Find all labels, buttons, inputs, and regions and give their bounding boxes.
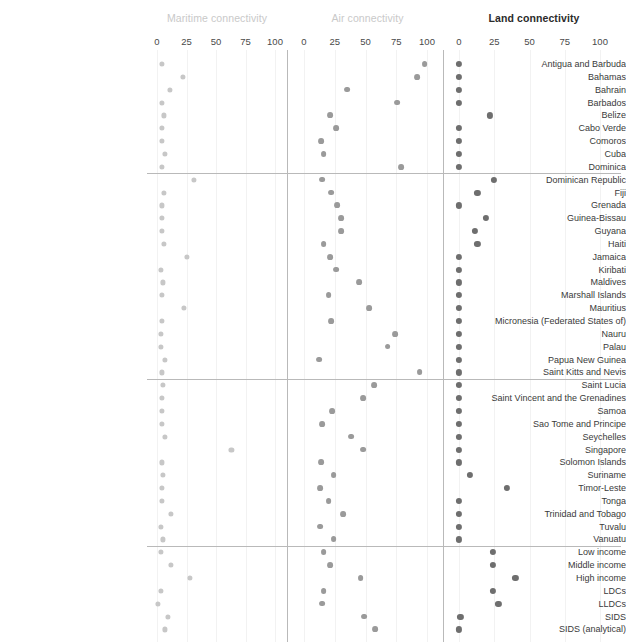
data-point-air xyxy=(327,254,333,260)
data-point-maritime xyxy=(159,408,164,413)
row-label: Maldives xyxy=(483,277,626,287)
data-point-land xyxy=(474,189,480,195)
data-point-air xyxy=(360,447,366,453)
gridline xyxy=(304,50,305,642)
gridline xyxy=(275,50,276,642)
data-point-maritime xyxy=(163,627,168,632)
data-point-land xyxy=(456,524,462,530)
row-label: Guyana xyxy=(483,226,626,236)
data-point-maritime xyxy=(159,100,164,105)
panel-title-land: Land connectivity xyxy=(447,12,621,24)
row-label: SIDS (analytical) xyxy=(483,624,626,634)
gridline xyxy=(246,50,247,642)
row-label: Middle income xyxy=(483,560,626,570)
row-label: Seychelles xyxy=(483,432,626,442)
row-label: Cuba xyxy=(483,149,626,159)
gridline xyxy=(366,50,367,642)
row-label: Dominican Republic xyxy=(483,175,626,185)
x-tick-label: 100 xyxy=(267,36,283,47)
row-label: Kiribati xyxy=(483,265,626,275)
panel-divider xyxy=(443,50,444,642)
data-point-maritime xyxy=(161,190,166,195)
data-point-air xyxy=(320,177,326,183)
x-tick-label: 100 xyxy=(592,36,608,47)
row-label: SIDS xyxy=(483,612,626,622)
data-point-maritime xyxy=(158,331,163,336)
data-point-maritime xyxy=(160,473,165,478)
x-tick-label: 25 xyxy=(329,36,340,47)
data-point-air xyxy=(331,472,337,478)
data-point-air xyxy=(334,202,340,208)
data-point-air xyxy=(348,434,354,440)
data-point-maritime xyxy=(167,87,172,92)
data-point-land xyxy=(456,331,462,337)
data-point-air xyxy=(321,241,327,247)
panel-divider xyxy=(287,50,288,642)
data-point-land xyxy=(456,164,462,170)
data-point-land xyxy=(456,267,462,273)
data-point-air xyxy=(356,280,362,286)
data-point-land xyxy=(456,459,462,465)
row-label: LLDCs xyxy=(483,599,626,609)
data-point-air xyxy=(340,511,346,517)
data-point-air xyxy=(317,524,323,530)
data-point-land xyxy=(456,421,462,427)
data-point-maritime xyxy=(158,524,163,529)
data-point-maritime xyxy=(159,396,164,401)
row-label: LDCs xyxy=(483,586,626,596)
row-label: Bahrain xyxy=(483,85,626,95)
row-label: Guinea-Bissau xyxy=(483,213,626,223)
data-point-air xyxy=(395,100,401,106)
data-point-air xyxy=(321,588,327,594)
row-label: Barbados xyxy=(483,98,626,108)
row-label: Palau xyxy=(483,342,626,352)
data-point-air xyxy=(320,421,326,427)
data-point-land xyxy=(456,434,462,440)
data-point-maritime xyxy=(187,575,192,580)
row-label: Papua New Guinea xyxy=(483,355,626,365)
data-point-air xyxy=(317,485,323,491)
row-label: Micronesia (Federated States of) xyxy=(483,316,626,326)
gridline xyxy=(396,50,397,642)
data-point-air xyxy=(316,357,322,363)
data-point-air xyxy=(321,151,327,157)
row-label: Cabo Verde xyxy=(483,123,626,133)
data-point-maritime xyxy=(159,203,164,208)
data-point-maritime xyxy=(159,126,164,131)
data-point-land xyxy=(456,356,462,362)
data-point-land xyxy=(456,344,462,350)
data-point-maritime xyxy=(159,370,164,375)
data-point-maritime xyxy=(159,216,164,221)
row-label: Nauru xyxy=(483,329,626,339)
data-point-air xyxy=(327,112,333,118)
data-point-land xyxy=(456,61,462,67)
data-point-maritime xyxy=(229,447,234,452)
data-point-maritime xyxy=(160,383,165,388)
data-point-land xyxy=(471,228,477,234)
x-tick-label: 25 xyxy=(181,36,192,47)
data-point-maritime xyxy=(159,228,164,233)
data-point-maritime xyxy=(158,588,163,593)
data-point-air xyxy=(318,138,324,144)
row-label: Saint Lucia xyxy=(483,380,626,390)
data-point-maritime xyxy=(159,61,164,66)
x-tick-label: 0 xyxy=(154,36,159,47)
data-point-maritime xyxy=(159,460,164,465)
x-tick-label: 75 xyxy=(240,36,251,47)
data-point-maritime xyxy=(182,306,187,311)
data-point-land xyxy=(456,74,462,80)
data-point-maritime xyxy=(169,563,174,568)
row-label: Haiti xyxy=(483,239,626,249)
data-point-land xyxy=(456,626,462,632)
data-point-maritime xyxy=(161,241,166,246)
data-point-maritime xyxy=(159,485,164,490)
data-point-air xyxy=(417,369,423,375)
data-point-air xyxy=(414,74,420,80)
row-label: Vanuatu xyxy=(483,534,626,544)
row-label: Marshall Islands xyxy=(483,290,626,300)
data-point-air xyxy=(326,498,332,504)
data-point-air xyxy=(358,575,364,581)
data-point-maritime xyxy=(159,421,164,426)
connectivity-dot-chart: Maritime connectivityAir connectivityLan… xyxy=(0,0,626,642)
data-point-land xyxy=(456,305,462,311)
